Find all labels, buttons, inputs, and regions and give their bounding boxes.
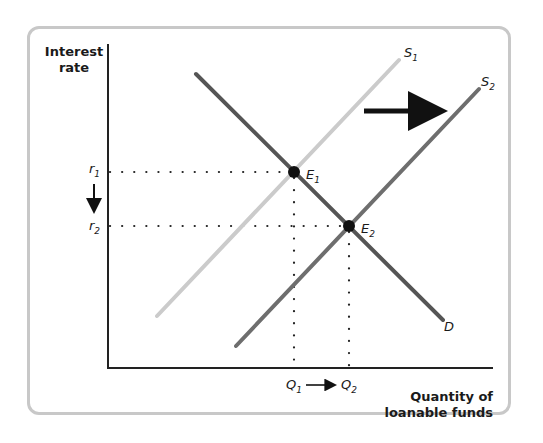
d-label: D (444, 319, 454, 334)
e1-label: E1 (306, 167, 320, 185)
s2-label: S2 (481, 74, 495, 92)
supply-curve-s2 (236, 89, 479, 346)
q1-label: Q1 (286, 377, 302, 395)
q2-label: Q2 (341, 377, 357, 395)
x-axis-title: Quantity ofloanable funds (384, 389, 493, 420)
r1-label: r1 (89, 161, 100, 179)
s1-label: S1 (404, 45, 418, 63)
loanable-funds-diagram: Interestrate Quantity ofloanable funds S… (0, 0, 543, 443)
e2-label: E2 (361, 221, 375, 239)
supply-curve-s1 (157, 60, 399, 316)
equilibrium-point-e2 (343, 220, 355, 232)
equilibrium-point-e1 (288, 166, 300, 178)
y-axis-title: Interestrate (45, 44, 103, 75)
r2-label: r2 (89, 218, 100, 236)
